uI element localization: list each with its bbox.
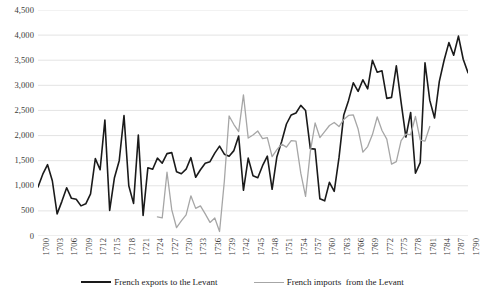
legend-item-2[interactable]: French imports from the Levant — [254, 278, 404, 287]
line-chart: 4,5004,0003,5003,0002,5002,0001,5001,000… — [0, 0, 485, 296]
x-tick-label: 1739 — [228, 238, 237, 255]
x-axis: 1700170317061709171217151718172117241727… — [38, 238, 468, 272]
x-tick-label: 1769 — [371, 238, 380, 255]
x-tick-label: 1766 — [357, 238, 366, 255]
x-tick-label: 1745 — [257, 238, 266, 255]
y-tick-label: 4,000 — [14, 31, 34, 40]
legend-item-1[interactable]: French exports to the Levant — [81, 278, 217, 287]
x-tick-label: 1754 — [300, 238, 309, 255]
y-tick-label: 1,000 — [14, 181, 34, 190]
x-tick-label: 1763 — [343, 238, 352, 255]
y-tick-label: 3,500 — [14, 56, 34, 65]
x-tick-label: 1706 — [70, 238, 79, 255]
x-tick-label: 1718 — [128, 238, 137, 255]
legend-line-swatch — [81, 281, 111, 283]
legend-label: French imports from the Levant — [287, 278, 404, 287]
x-tick-label: 1742 — [242, 238, 251, 255]
y-tick-label: 2,000 — [14, 131, 34, 140]
y-tick-label: 4,500 — [14, 6, 34, 15]
x-tick-label: 1748 — [271, 238, 280, 255]
x-tick-label: 1727 — [171, 238, 180, 255]
x-tick-label: 1757 — [314, 238, 323, 255]
x-tick-label: 1730 — [185, 238, 194, 255]
x-tick-label: 1787 — [457, 238, 466, 255]
x-tick-label: 1778 — [414, 238, 423, 255]
x-tick-label: 1733 — [199, 238, 208, 255]
x-tick-label: 1790 — [472, 238, 481, 255]
x-tick-label: 1760 — [328, 238, 337, 255]
x-tick-label: 1700 — [42, 238, 51, 255]
y-axis: 4,5004,0003,5003,0002,5002,0001,5001,000… — [0, 0, 34, 250]
chart-legend: French exports to the LevantFrench impor… — [0, 272, 485, 292]
plot-svg — [38, 10, 468, 236]
y-tick-label: 500 — [21, 206, 34, 215]
legend-line-swatch — [254, 282, 284, 283]
plot-area — [38, 10, 468, 236]
x-tick-label: 1781 — [429, 238, 438, 255]
series-line-1 — [38, 36, 468, 215]
series-lines — [38, 36, 468, 231]
legend-label: French exports to the Levant — [114, 278, 217, 287]
x-tick-label: 1772 — [386, 238, 395, 255]
y-tick-label: 0 — [30, 232, 34, 241]
x-tick-label: 1736 — [214, 238, 223, 255]
x-tick-label: 1712 — [99, 238, 108, 255]
y-tick-label: 1,500 — [14, 156, 34, 165]
x-tick-label: 1703 — [56, 238, 65, 255]
x-tick-label: 1724 — [156, 238, 165, 255]
x-tick-label: 1751 — [285, 238, 294, 255]
x-tick-label: 1721 — [142, 238, 151, 255]
x-tick-label: 1709 — [85, 238, 94, 255]
x-tick-label: 1784 — [443, 238, 452, 255]
x-tick-label: 1775 — [400, 238, 409, 255]
y-tick-label: 3,000 — [14, 81, 34, 90]
y-tick-label: 2,500 — [14, 106, 34, 115]
x-tick-label: 1715 — [113, 238, 122, 255]
